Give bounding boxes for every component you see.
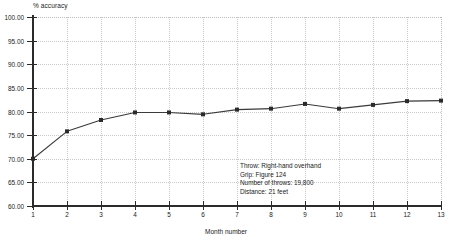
annotation-line-throw: Throw: Right-hand overhand	[240, 162, 321, 171]
y-axis-tick	[27, 159, 37, 160]
x-axis-title: Month number	[0, 228, 452, 235]
x-axis-tick	[373, 201, 374, 210]
y-axis-tick	[27, 206, 37, 207]
gridline-vertical	[237, 17, 238, 206]
x-axis-tick-label: 11	[370, 211, 377, 218]
gridline-vertical	[373, 17, 374, 206]
x-axis-tick	[271, 201, 272, 210]
x-axis-tick-label: 13	[437, 211, 444, 218]
x-axis-tick-label: 5	[167, 211, 171, 218]
y-axis-tick	[27, 135, 37, 136]
gridline-vertical	[169, 17, 170, 206]
x-axis-tick-label: 3	[99, 211, 103, 218]
x-axis-tick-label: 12	[403, 211, 410, 218]
y-axis-tick	[27, 41, 37, 42]
x-axis-tick-label: 1	[31, 211, 35, 218]
x-axis-tick	[33, 201, 34, 210]
y-axis-tick-label: 60.00	[8, 203, 24, 210]
gridline-vertical	[407, 17, 408, 206]
y-axis-tick	[27, 17, 37, 18]
x-axis-tick	[101, 201, 102, 210]
x-axis-tick	[237, 201, 238, 210]
x-axis-tick-label: 4	[133, 211, 137, 218]
x-axis-tick-label: 2	[65, 211, 69, 218]
gridline-vertical	[203, 17, 204, 206]
gridline-vertical	[441, 17, 442, 206]
x-axis-tick	[441, 201, 442, 210]
y-axis-tick	[27, 64, 37, 65]
annotation-line-grip: Grip: Figure 124	[240, 171, 321, 180]
y-axis-tick-label: 85.00	[8, 84, 24, 91]
gridline-vertical	[339, 17, 340, 206]
accuracy-line-chart: % accuracy Month number Throw: Right-han…	[0, 0, 452, 248]
x-axis-tick-label: 6	[201, 211, 205, 218]
x-axis-tick-label: 9	[303, 211, 307, 218]
plot-area	[33, 17, 441, 206]
annotation-line-throws: Number of throws: 19,800	[240, 179, 321, 188]
x-axis-tick-label: 8	[269, 211, 273, 218]
x-axis-tick	[67, 201, 68, 210]
y-axis-tick-label: 70.00	[8, 155, 24, 162]
y-axis-tick-label: 65.00	[8, 179, 24, 186]
y-axis-tick-label: 100.00	[4, 14, 24, 21]
y-axis-tick-label: 95.00	[8, 37, 24, 44]
y-axis-tick	[27, 112, 37, 113]
chart-annotation-block: Throw: Right-hand overhand Grip: Figure …	[240, 162, 321, 196]
gridline-vertical	[67, 17, 68, 206]
y-axis-tick-label: 80.00	[8, 108, 24, 115]
gridline-vertical	[135, 17, 136, 206]
y-axis-tick	[27, 182, 37, 183]
y-axis-tick-label: 75.00	[8, 132, 24, 139]
x-axis-tick	[135, 201, 136, 210]
x-axis-tick	[169, 201, 170, 210]
gridline-vertical	[101, 17, 102, 206]
x-axis-tick	[203, 201, 204, 210]
y-axis-tick-label: 90.00	[8, 61, 24, 68]
x-axis-tick	[339, 201, 340, 210]
y-axis-tick	[27, 88, 37, 89]
y-axis-title: % accuracy	[33, 2, 68, 9]
annotation-line-distance: Distance: 21 feet	[240, 188, 321, 197]
x-axis-tick	[305, 201, 306, 210]
x-axis-tick-label: 10	[335, 211, 342, 218]
x-axis-tick-label: 7	[235, 211, 239, 218]
x-axis-tick	[407, 201, 408, 210]
